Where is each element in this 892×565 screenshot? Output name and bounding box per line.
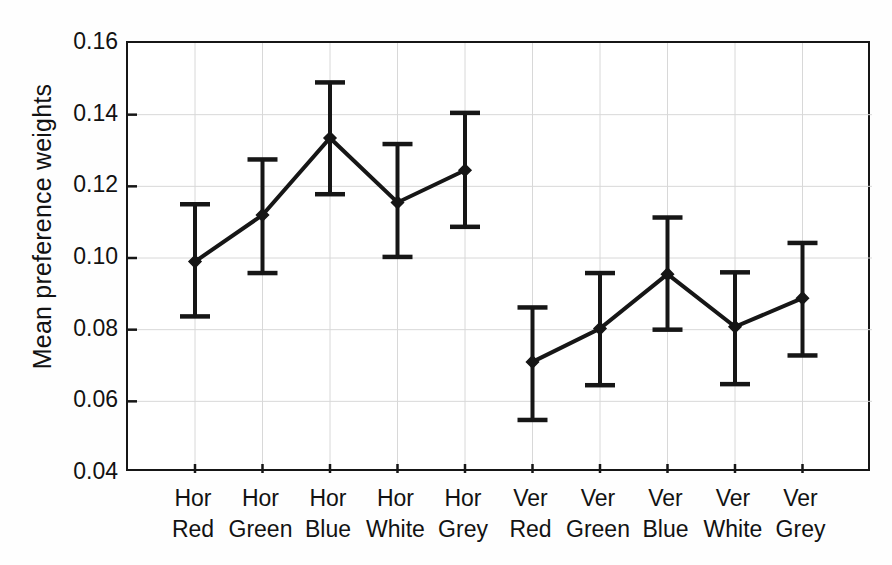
y-tick-label: 0.08 [34, 314, 118, 341]
plot-svg [128, 43, 872, 473]
plot-area [126, 41, 870, 471]
y-tick-label: 0.06 [34, 386, 118, 413]
x-tick-label: VerGrey [741, 483, 861, 545]
chart-figure: Mean preference weights 0.160.140.120.10… [0, 0, 892, 565]
x-tick-label-line: Grey [741, 514, 861, 545]
y-axis-tick-labels: 0.160.140.120.100.080.060.04 [34, 0, 118, 565]
y-tick-label: 0.04 [34, 458, 118, 485]
y-tick-label: 0.12 [34, 171, 118, 198]
x-tick-label-line: Ver [741, 483, 861, 514]
x-axis-tick-labels: HorRedHorGreenHorBlueHorWhiteHorGreyVerR… [126, 471, 870, 565]
y-tick-label: 0.14 [34, 99, 118, 126]
y-tick-label: 0.10 [34, 243, 118, 270]
y-tick-label: 0.16 [34, 28, 118, 55]
data-point-marker [797, 292, 809, 304]
